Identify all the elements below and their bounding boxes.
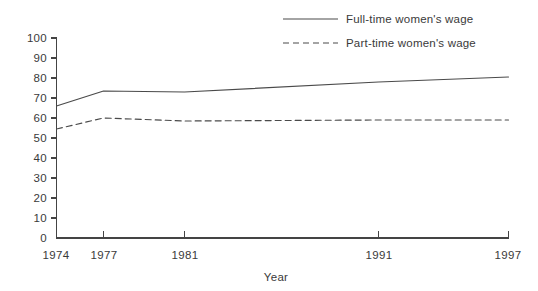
y-tick-label: 0	[40, 232, 47, 244]
x-axis-title: Year	[264, 271, 288, 283]
y-tick-label: 90	[34, 52, 47, 64]
y-tick-label: 80	[34, 72, 47, 84]
y-tick-label: 60	[34, 112, 47, 124]
x-tick-label: 1974	[42, 249, 69, 261]
y-tick-label: 30	[34, 172, 47, 184]
x-tick-label: 1991	[365, 249, 392, 261]
x-tick-label: 1977	[90, 249, 117, 261]
y-tick-label: 70	[34, 92, 47, 104]
y-tick-label: 40	[34, 152, 47, 164]
x-tick-label: 1981	[171, 249, 198, 261]
y-tick-label: 10	[34, 212, 47, 224]
y-tick-label: 50	[34, 132, 47, 144]
chart-canvas: 100 90 80 70 60 50 40 30 20 10 0 1974 19…	[0, 0, 538, 291]
y-tick-label: 20	[34, 192, 47, 204]
legend-label-full-time: Full-time women's wage	[346, 13, 473, 25]
x-tick-label: 1997	[494, 249, 521, 261]
line-chart: 100 90 80 70 60 50 40 30 20 10 0 1974 19…	[0, 0, 538, 291]
y-tick-label: 100	[27, 32, 47, 44]
legend-label-part-time: Part-time women's wage	[346, 37, 476, 49]
